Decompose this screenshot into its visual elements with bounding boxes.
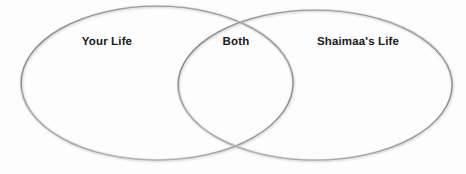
venn-shapes <box>0 0 466 174</box>
intersection-region-label: Both <box>223 36 250 48</box>
left-region-label: Your Life <box>82 36 132 48</box>
right-region-label: Shaimaa's Life <box>317 36 399 48</box>
venn-diagram: Your Life Both Shaimaa's Life <box>0 0 466 174</box>
